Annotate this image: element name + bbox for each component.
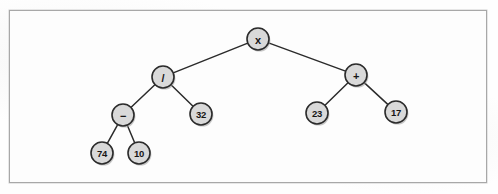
node-label: 17 bbox=[391, 107, 401, 118]
tree-edge bbox=[106, 123, 118, 145]
tree-edge bbox=[323, 81, 349, 106]
tree-edge bbox=[363, 81, 390, 106]
edges-layer bbox=[106, 42, 389, 145]
node-label: / bbox=[162, 72, 165, 84]
node-label: 23 bbox=[312, 108, 322, 119]
tree-node-n10: 10 bbox=[128, 142, 151, 166]
tree-edge bbox=[171, 42, 249, 73]
node-label: 32 bbox=[196, 109, 206, 120]
tree-node-n17: 17 bbox=[385, 101, 408, 125]
tree-edge bbox=[266, 42, 347, 72]
node-label: + bbox=[353, 70, 359, 82]
tree-node-n23: 23 bbox=[306, 102, 329, 126]
tree-node-div: / bbox=[152, 66, 175, 90]
tree-node-n74: 74 bbox=[91, 142, 114, 166]
tree-node-plus: + bbox=[345, 64, 368, 88]
node-label: 74 bbox=[97, 148, 108, 159]
tree-edge bbox=[130, 83, 157, 109]
tree-node-n32: 32 bbox=[190, 103, 213, 127]
nodes-layer: x/+−3223177410 bbox=[91, 28, 408, 166]
tree-edge bbox=[169, 83, 194, 107]
node-label: − bbox=[120, 110, 126, 122]
expression-tree-figure: x/+−3223177410 bbox=[0, 0, 498, 194]
tree-node-root: x bbox=[247, 28, 270, 52]
tree-diagram: x/+−3223177410 bbox=[0, 0, 498, 194]
node-label: 10 bbox=[134, 148, 144, 159]
tree-node-minus: − bbox=[112, 104, 135, 128]
